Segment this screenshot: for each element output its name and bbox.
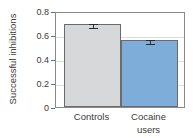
- error-bar-cap-upper: [146, 40, 155, 41]
- error-bar-cap-upper: [89, 24, 98, 25]
- y-axis-tick-label: 0.8: [22, 8, 49, 17]
- y-axis-tick-mark: [51, 60, 55, 61]
- bar-chart: Successful inhibitions 00.20.40.60.8 Con…: [0, 0, 196, 138]
- y-axis-tick-label: 0.2: [22, 80, 49, 89]
- plot-area: [55, 12, 185, 108]
- x-axis-category-label-line: Cocaine: [112, 111, 185, 124]
- y-axis-tick-mark: [51, 108, 55, 109]
- bar: [121, 40, 178, 107]
- y-axis-title: Successful inhibitions: [7, 4, 19, 114]
- y-axis-tick-mark: [51, 84, 55, 85]
- y-axis-tick-mark: [51, 12, 55, 13]
- x-axis-category-label: Cocaineusers: [112, 111, 185, 136]
- y-axis-tick-mark: [51, 36, 55, 37]
- x-axis-category-labels: ControlsCocaineusers: [55, 111, 185, 138]
- error-bar-cap-lower: [146, 44, 155, 45]
- error-bar-cap-lower: [89, 28, 98, 29]
- x-axis-category-label-line: users: [112, 124, 185, 137]
- y-axis-tick-label: 0.6: [22, 32, 49, 41]
- bar: [64, 24, 121, 107]
- y-axis-tick-label: 0.4: [22, 56, 49, 65]
- y-axis-tick-labels: 00.20.40.60.8: [22, 0, 49, 138]
- y-axis-tick-label: 0: [22, 104, 49, 113]
